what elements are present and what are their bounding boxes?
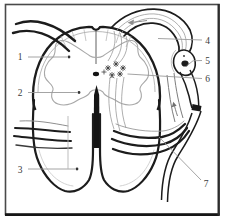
label-6: 6 xyxy=(205,74,210,84)
label-4: 4 xyxy=(205,36,210,46)
ganglion-dot xyxy=(183,55,185,57)
dot-3 xyxy=(76,168,79,171)
dot-1 xyxy=(68,56,71,59)
label-1: 1 xyxy=(18,52,23,62)
label-7: 7 xyxy=(204,179,209,189)
spinal-cord-diagram: 1 2 3 4 5 6 7 xyxy=(0,0,226,218)
label-3: 3 xyxy=(18,165,23,175)
label-2: 2 xyxy=(18,88,23,98)
figure-page: 1 2 3 4 5 6 7 xyxy=(0,0,226,218)
label-5: 5 xyxy=(205,56,210,66)
dot-2 xyxy=(78,91,81,94)
central-canal xyxy=(93,72,99,76)
anterior-median-fissure xyxy=(94,85,100,148)
